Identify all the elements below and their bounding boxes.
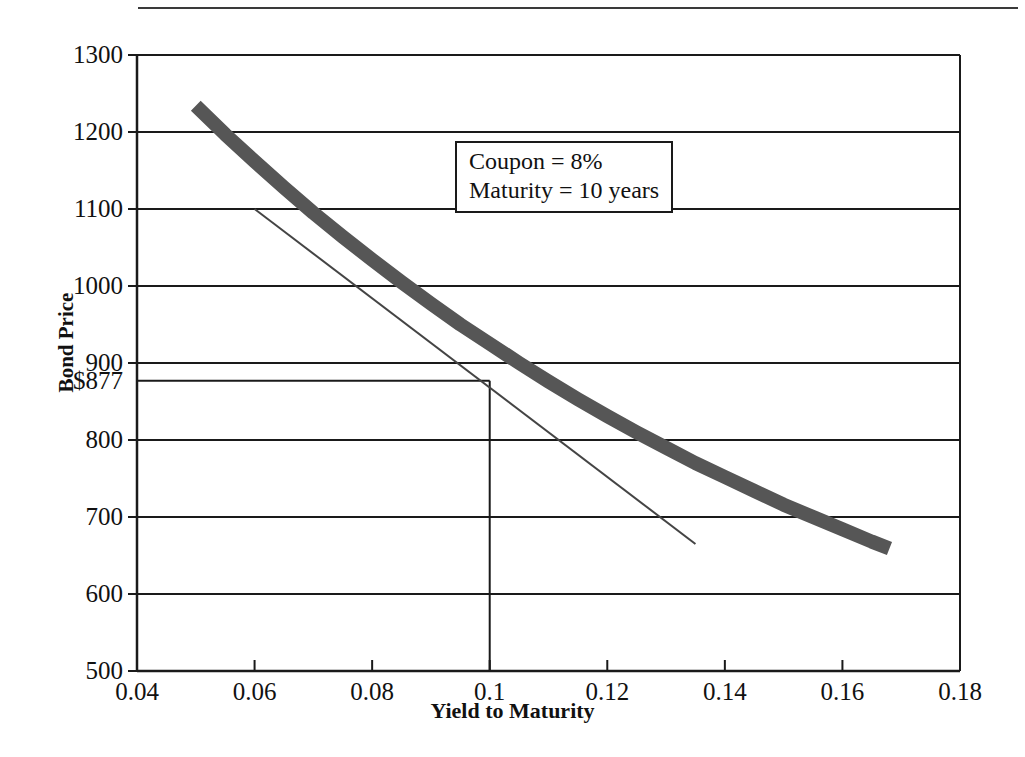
x-axis-title: Yield to Maturity — [0, 698, 1025, 724]
y-axis-title: Bond Price — [54, 273, 79, 413]
bond-price-chart: 5006007008009001000110012001300$877 0.04… — [0, 0, 1025, 757]
bond-terms-annotation: Coupon = 8% Maturity = 10 years — [455, 141, 673, 213]
ytick-label-800: 800 — [86, 427, 124, 452]
ytick-label-reference-price: $877 — [73, 368, 123, 393]
reference-lines — [137, 381, 490, 671]
ytick-label-1100: 1100 — [74, 196, 123, 221]
annotation-coupon: Coupon = 8% — [469, 147, 659, 176]
chart-canvas — [0, 0, 1025, 757]
ytick-label-1300: 1300 — [73, 42, 123, 67]
annotation-maturity: Maturity = 10 years — [469, 176, 659, 205]
ytick-label-1000: 1000 — [73, 273, 123, 298]
ytick-label-600: 600 — [86, 581, 124, 606]
tangent-line — [255, 209, 696, 544]
ytick-label-700: 700 — [86, 504, 124, 529]
ytick-label-1200: 1200 — [73, 119, 123, 144]
horizontal-gridlines — [137, 55, 960, 594]
